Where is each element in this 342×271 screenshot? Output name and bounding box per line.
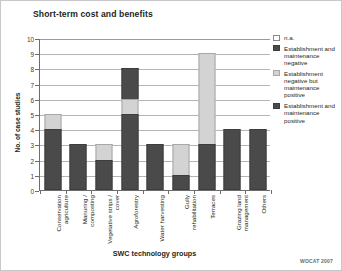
y-axis-tick-label: 4 — [30, 127, 34, 134]
x-axis-tick-label: Manuring / composting — [81, 195, 95, 245]
bar-segment — [198, 144, 215, 190]
stacked-bar[interactable] — [198, 53, 215, 190]
bar-segment — [70, 144, 87, 190]
bar-segment — [147, 144, 164, 190]
legend-label: Establishment negative but maintenance p… — [284, 70, 323, 99]
stacked-bar[interactable] — [121, 68, 138, 190]
x-axis-title: SWC technology groups — [39, 249, 270, 258]
bar-segment — [224, 129, 241, 190]
x-axis-tick-label: Vegetative strips / cover — [106, 195, 120, 245]
stacked-bar[interactable] — [147, 144, 164, 190]
bar-segment — [96, 160, 113, 190]
x-axis-tick-mark — [143, 190, 144, 194]
bar-segment — [198, 53, 215, 144]
x-axis-tick-mark — [91, 190, 92, 194]
bar-slot — [168, 39, 194, 190]
bar-segment — [121, 114, 138, 190]
bar-segment — [121, 68, 138, 98]
y-axis-tick-label: 10 — [27, 36, 34, 43]
bar-segment — [121, 99, 138, 114]
bar-segment — [96, 144, 113, 159]
legend-label: Establishment and maintenance positive — [284, 102, 335, 123]
bar-segment — [250, 129, 267, 190]
y-axis-tick-label: 1 — [30, 172, 34, 179]
legend-item[interactable]: Establishment and maintenance negative — [273, 45, 341, 67]
x-axis-tick-label: Conservation agriculture — [55, 195, 69, 245]
x-axis-tick-mark — [220, 190, 221, 194]
stacked-bar[interactable] — [173, 144, 190, 190]
x-axis-tick-label: Gully rehabilitation — [183, 195, 197, 245]
legend-item[interactable]: n.a. — [273, 34, 341, 41]
x-axis-tick-label: Grazing land management — [235, 195, 249, 245]
y-axis-tick-label: 2 — [30, 157, 34, 164]
source-credit: WOCAT 2007 — [300, 258, 333, 264]
bar-slot — [66, 39, 92, 190]
x-axis-tick-label: Terraces — [209, 195, 216, 245]
x-axis-tick-mark — [168, 190, 169, 194]
y-axis-tick-label: 7 — [30, 81, 34, 88]
x-axis-tick-mark — [194, 190, 195, 194]
y-axis-title: No. of case studies — [14, 53, 21, 193]
y-axis-tick-mark — [35, 191, 39, 192]
legend-swatch-icon — [273, 35, 280, 41]
y-axis-tick-label: 5 — [30, 112, 34, 119]
stacked-bar[interactable] — [96, 144, 113, 190]
legend-item[interactable]: Establishment negative but maintenance p… — [273, 70, 341, 99]
y-axis-tick-label: 8 — [30, 66, 34, 73]
legend-label: Establishment and maintenance negative — [284, 45, 335, 66]
x-axis-tick-mark — [117, 190, 118, 194]
bar-slot — [245, 39, 271, 190]
bar-slot — [91, 39, 117, 190]
chart-figure: Short-term cost and benefits No. of case… — [0, 0, 342, 271]
legend-swatch-icon — [273, 70, 280, 76]
x-axis-tick-label: Agroforestry — [132, 195, 139, 245]
x-axis-tick-mark — [271, 190, 272, 194]
legend-item[interactable]: Establishment and maintenance positive — [273, 102, 341, 124]
plot-area — [39, 39, 270, 191]
bar-slot — [194, 39, 220, 190]
stacked-bar[interactable] — [224, 129, 241, 190]
x-axis-tick-label: Others — [260, 195, 267, 245]
bar-slot — [143, 39, 169, 190]
chart-title: Short-term cost and benefits — [33, 9, 153, 19]
bar-slot — [220, 39, 246, 190]
stacked-bar[interactable] — [70, 144, 87, 190]
bar-slot — [117, 39, 143, 190]
stacked-bar[interactable] — [44, 114, 61, 190]
y-axis-tick-label: 3 — [30, 142, 34, 149]
x-axis-tick-mark — [245, 190, 246, 194]
y-axis-tick-label: 0 — [30, 188, 34, 195]
y-axis-tick-label: 6 — [30, 96, 34, 103]
bar-segment — [173, 175, 190, 190]
bar-segment — [173, 144, 190, 174]
legend-swatch-icon — [273, 45, 280, 51]
stacked-bar[interactable] — [250, 129, 267, 190]
y-axis: No. of case studies 012345678910 — [1, 39, 39, 191]
bar-group — [40, 39, 270, 190]
legend-label: n.a. — [284, 34, 294, 41]
x-axis-tick-mark — [66, 190, 67, 194]
x-axis-tick-labels: Conservation agricultureManuring / compo… — [39, 195, 270, 247]
bar-slot — [40, 39, 66, 190]
bar-segment — [44, 114, 61, 129]
y-axis-tick-label: 9 — [30, 51, 34, 58]
x-axis-tick-mark — [40, 190, 41, 194]
x-axis-tick-label: Water harvesting — [158, 195, 165, 245]
legend-swatch-icon — [273, 103, 280, 109]
chart-legend: n.a.Establishment and maintenance negati… — [273, 34, 341, 127]
bar-segment — [44, 129, 61, 190]
